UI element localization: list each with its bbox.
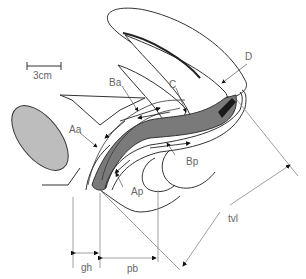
measure-label-gh: gh (81, 263, 92, 273)
point-label-c: C (169, 80, 176, 90)
point-label-bp: Bp (186, 157, 198, 167)
point-label-ba: Ba (109, 78, 121, 88)
diagram-canvas (0, 0, 306, 279)
pubic-bone (1, 96, 79, 181)
measure-label-pb: pb (127, 264, 138, 274)
vestibule-line (42, 168, 80, 185)
measure-label-tvl: tvl (228, 214, 238, 224)
scale-bar (27, 62, 61, 70)
bladder-wedge (60, 95, 145, 125)
pop-q-diagram: 3cm Ba Aa C D Ap Bp gh pb tvl (0, 0, 306, 279)
point-label-aa: Aa (69, 125, 81, 135)
scale-bar-label: 3cm (33, 71, 52, 81)
point-label-d: D (245, 52, 252, 62)
point-label-ap: Ap (131, 187, 143, 197)
rectum (142, 158, 175, 192)
